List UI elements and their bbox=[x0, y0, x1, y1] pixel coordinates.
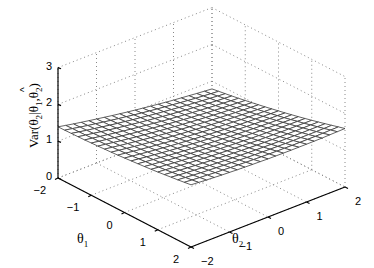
theta2-tick-mark bbox=[345, 187, 348, 189]
theta2-tick-label: 2 bbox=[355, 195, 361, 207]
z-tick-label: 3 bbox=[46, 60, 52, 72]
theta1-tick-mark bbox=[188, 247, 191, 249]
theta1-tick-label: 1 bbox=[140, 236, 146, 248]
theta2-tick-mark bbox=[307, 202, 310, 204]
grid-line bbox=[212, 8, 345, 77]
theta1-tick-mark bbox=[155, 230, 158, 232]
theta1-tick-label: −2 bbox=[33, 184, 46, 196]
theta2-tick-label: 0 bbox=[278, 225, 284, 237]
z-tick-label: 0 bbox=[46, 170, 52, 182]
theta1-tick-mark bbox=[55, 178, 58, 180]
theta2-tick-label: 1 bbox=[317, 210, 323, 222]
z-tick-label: 2 bbox=[46, 96, 52, 108]
theta1-tick-label: 0 bbox=[106, 219, 112, 231]
surface-mesh bbox=[58, 89, 345, 185]
theta1-tick-mark bbox=[88, 195, 91, 197]
theta1-tick-label: −1 bbox=[67, 201, 80, 213]
surface-plot: −2−1012−2−10120123 θ2 θ1 Var(θ2|θ1,θ2) ^ bbox=[0, 0, 374, 268]
z-tick-mark bbox=[58, 178, 61, 179]
grid-line bbox=[58, 8, 212, 68]
theta2-tick-mark bbox=[191, 247, 194, 249]
z-tick-label: 1 bbox=[46, 133, 52, 145]
theta2-tick-label: −2 bbox=[201, 255, 214, 267]
theta1-tick-mark bbox=[122, 213, 125, 215]
theta1-axis-label: θ1 bbox=[77, 231, 88, 249]
z-label-hat: ^ bbox=[19, 87, 30, 92]
theta1-tick-label: 2 bbox=[173, 253, 179, 265]
theta2-tick-mark bbox=[268, 217, 271, 219]
theta2-axis-label: θ2 bbox=[232, 231, 243, 249]
